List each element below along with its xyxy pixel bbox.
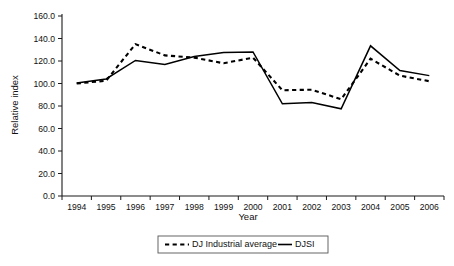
legend-label-djsi: DJSI <box>295 239 315 249</box>
x-axis-title-text: Year <box>238 211 257 222</box>
x-tick-label: 2006 <box>420 202 439 212</box>
y-tick-label: 100.0 <box>33 79 55 89</box>
x-tick-label: 2003 <box>332 202 351 212</box>
x-tick-label: 1998 <box>185 202 204 212</box>
y-tick-label: 80.0 <box>38 101 55 111</box>
y-tick-label: 140.0 <box>33 34 55 44</box>
x-tick-label: 2004 <box>361 202 380 212</box>
y-axis-title-text: Relative index <box>9 75 20 135</box>
x-tick-label: 1997 <box>155 202 174 212</box>
y-tick-label: 160.0 <box>33 11 55 21</box>
x-tick-label: 1996 <box>126 202 145 212</box>
x-axis-ticks: 1994199519961997199819992000200120022003… <box>62 196 444 212</box>
relative-index-line-chart: Relative index 0.020.040.060.080.0100.01… <box>0 0 454 266</box>
x-tick-label: 1995 <box>97 202 116 212</box>
series-line-djsi <box>77 46 430 109</box>
y-axis-title: Relative index <box>9 75 20 135</box>
legend-label-dj-industrial-average: DJ Industrial average <box>192 239 277 249</box>
chart-container: Relative index 0.020.040.060.080.0100.01… <box>0 0 454 266</box>
y-tick-label: 60.0 <box>38 124 55 134</box>
y-tick-label: 40.0 <box>38 146 55 156</box>
chart-legend: DJ Industrial average DJSI <box>158 236 328 253</box>
x-tick-label: 2005 <box>390 202 409 212</box>
y-tick-label: 120.0 <box>33 56 55 66</box>
x-tick-label: 2002 <box>302 202 321 212</box>
y-axis-ticks: 0.020.040.060.080.0100.0120.0140.0160.0 <box>33 11 62 201</box>
y-tick-label: 0.0 <box>43 191 55 201</box>
x-tick-label: 1994 <box>67 202 86 212</box>
y-tick-label: 20.0 <box>38 169 55 179</box>
x-tick-label: 1999 <box>214 202 233 212</box>
x-tick-label: 2001 <box>273 202 292 212</box>
